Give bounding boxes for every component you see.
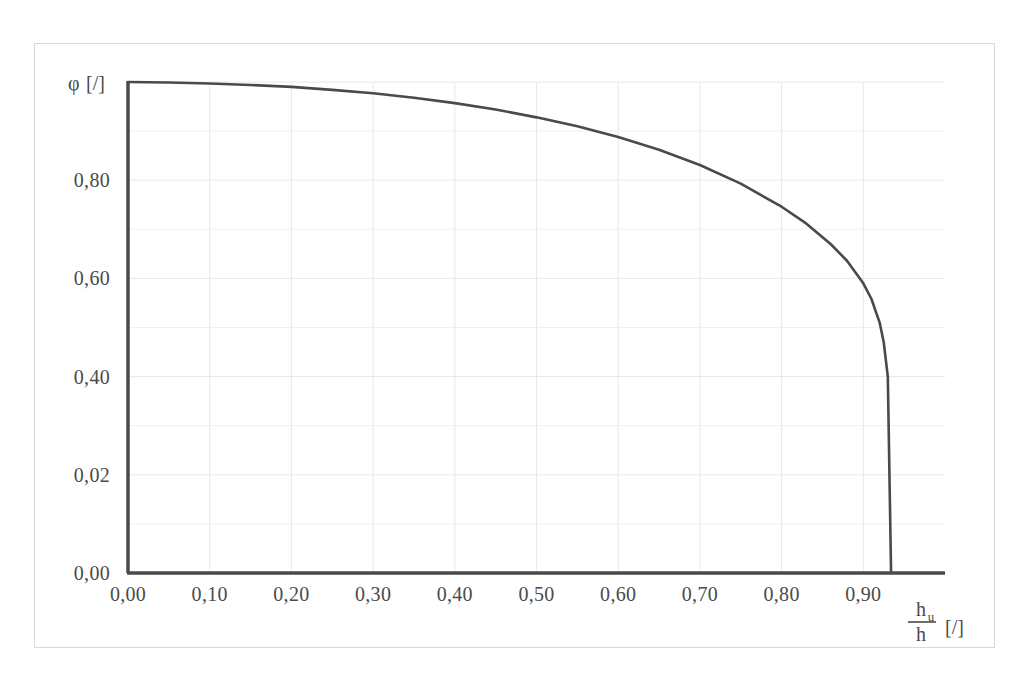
y-tick-label: 0,60 <box>74 267 110 289</box>
svg-text:[/]: [/] <box>86 72 105 94</box>
x-tick-label: 0,60 <box>600 583 636 605</box>
svg-text:h: h <box>916 623 926 645</box>
y-tick-label: 0,02 <box>74 464 110 486</box>
y-tick-label: 0,40 <box>74 366 110 388</box>
x-tick-label: 0,80 <box>763 583 799 605</box>
x-tick-label: 0,40 <box>437 583 473 605</box>
y-axis-tick-labels: 0,000,020,400,600,80 <box>74 169 110 584</box>
x-tick-label: 0,90 <box>845 583 881 605</box>
chart-plot: 0,000,100,200,300,400,500,600,700,800,90… <box>0 0 1028 687</box>
x-tick-label: 0,30 <box>355 583 391 605</box>
svg-text:[/]: [/] <box>945 616 964 638</box>
y-tick-label: 0,80 <box>74 169 110 191</box>
x-tick-label: 0,00 <box>110 583 146 605</box>
x-tick-label: 0,10 <box>192 583 228 605</box>
y-tick-label: 0,00 <box>74 562 110 584</box>
gridlines-group <box>128 82 945 573</box>
figure-container: 0,000,100,200,300,400,500,600,700,800,90… <box>0 0 1028 687</box>
y-axis-title: φ [/] <box>68 72 105 95</box>
svg-text:h: h <box>916 598 926 620</box>
svg-text:φ: φ <box>68 72 80 95</box>
x-tick-label: 0,50 <box>518 583 554 605</box>
x-tick-label: 0,20 <box>273 583 309 605</box>
x-axis-tick-labels: 0,000,100,200,300,400,500,600,700,800,90 <box>110 583 882 605</box>
x-tick-label: 0,70 <box>682 583 718 605</box>
x-axis-title: h u h [/] <box>908 598 964 645</box>
